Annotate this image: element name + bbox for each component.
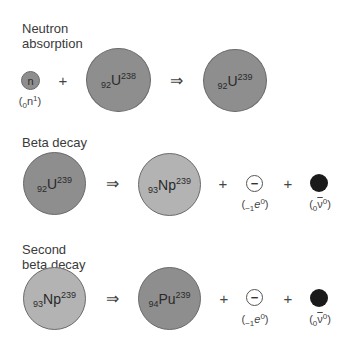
plus-operator: + <box>220 290 229 307</box>
nucleus-u238: 92U238 <box>86 48 151 112</box>
title-line: Beta decay <box>22 135 87 150</box>
electron-particle: − <box>246 175 263 192</box>
antineutrino-particle <box>310 174 328 192</box>
neutron-label: (0n1) <box>19 95 41 107</box>
title-line: absorption <box>22 36 83 51</box>
title-line: Neutron <box>22 21 83 36</box>
nucleus-symbol: 94Pu239 <box>148 291 190 307</box>
reaction-arrow: ⇒ <box>106 289 119 308</box>
nucleus-u239: 92U239 <box>23 152 86 215</box>
nucleus-symbol: 92U239 <box>217 73 252 89</box>
nucleus-pu239: 94Pu239 <box>138 267 201 330</box>
section-title-neutron-absorption: Neutron absorption <box>22 21 83 51</box>
nucleus-symbol: 92U238 <box>101 72 136 88</box>
electron-label: (−1e0) <box>241 313 268 325</box>
nucleus-np239: 93Np239 <box>138 153 201 216</box>
nucleus-symbol: 93Np239 <box>33 291 76 307</box>
neutron-particle: n <box>21 71 40 90</box>
electron-label: (−1e0) <box>241 198 268 210</box>
reaction-arrow: ⇒ <box>106 174 119 193</box>
nucleus-u239: 92U239 <box>203 49 267 112</box>
minus-icon: − <box>251 291 259 304</box>
nucleus-np239: 93Np239 <box>23 267 86 330</box>
section-title-beta-decay: Beta decay <box>22 135 87 150</box>
nucleus-symbol: 92U239 <box>37 176 72 192</box>
nucleus-symbol: 93Np239 <box>148 177 191 193</box>
antineutrino-label: (0ν0) <box>309 198 331 210</box>
electron-particle: − <box>246 289 263 306</box>
plus-operator: + <box>219 175 228 192</box>
plus-operator: + <box>284 175 293 192</box>
antineutrino-particle <box>310 289 328 307</box>
plus-operator: + <box>284 290 293 307</box>
reaction-arrow: ⇒ <box>170 71 183 90</box>
antineutrino-label: (0ν0) <box>309 313 331 325</box>
title-line: Second <box>22 242 86 257</box>
plus-operator: + <box>59 72 68 89</box>
minus-icon: − <box>251 177 259 190</box>
neutron-symbol: n <box>27 75 33 87</box>
